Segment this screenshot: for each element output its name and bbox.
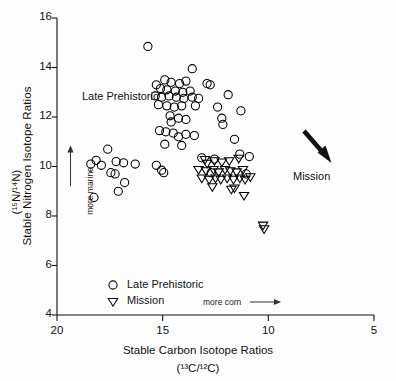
scatter-plot-figure: Stable Nitrogen Isotope Ratios (¹⁵N/¹⁴N)… <box>0 0 396 381</box>
y-tick-label: 12 <box>24 109 52 121</box>
data-point-circle <box>170 103 178 111</box>
y-tick-label: 14 <box>24 60 52 72</box>
legend-label-mission: Mission <box>127 294 164 306</box>
data-point-circle <box>214 103 222 111</box>
x-axis-subtitle: (¹³C/¹²C) <box>0 362 396 374</box>
data-point-circle <box>172 93 180 101</box>
data-point-circle <box>119 159 127 167</box>
data-point-circle <box>206 81 214 89</box>
data-point-circle <box>182 115 190 123</box>
more-marine-arrow-icon <box>67 146 73 187</box>
marine-arrow-head <box>67 146 73 153</box>
annotation-mission: Mission <box>293 170 330 182</box>
annotation-more-marine: more marine <box>85 143 95 239</box>
data-points <box>87 42 269 233</box>
data-point-circle <box>158 166 166 174</box>
data-point-circle <box>188 65 196 73</box>
data-point-circle <box>112 157 120 165</box>
y-tick-label: 16 <box>24 10 52 22</box>
data-point-circle <box>160 169 168 177</box>
y-tick-label: 10 <box>24 159 52 171</box>
legend-label-late-prehistoric: Late Prehistoric <box>127 278 203 290</box>
data-point-circle <box>144 42 152 50</box>
data-point-circle <box>131 160 139 168</box>
mission-arrow-icon <box>304 131 332 163</box>
data-point-circle <box>219 120 227 128</box>
corn-arrow-head <box>274 299 281 305</box>
data-point-circle <box>178 102 186 110</box>
data-point-circle <box>163 102 171 110</box>
data-point-circle <box>121 178 129 186</box>
data-point-circle <box>191 102 199 110</box>
y-tick-label: 4 <box>24 307 52 319</box>
data-point-circle <box>161 140 169 148</box>
legend-marker-circle <box>109 281 117 289</box>
data-point-triangle <box>234 155 243 163</box>
x-axis-title: Stable Carbon Isotope Ratios <box>0 344 396 356</box>
more-corn-arrow-icon <box>250 299 281 305</box>
legend-markers <box>108 281 117 306</box>
annotation-more-corn: more corn <box>203 297 241 307</box>
data-point-circle <box>237 107 245 115</box>
data-point-triangle <box>239 192 248 200</box>
x-tick-label: 15 <box>143 324 183 336</box>
data-point-triangle <box>208 184 217 192</box>
x-tick-label: 10 <box>248 324 288 336</box>
x-tick-label: 5 <box>354 324 394 336</box>
data-point-circle <box>245 153 253 161</box>
y-tick-label: 6 <box>24 258 52 270</box>
data-point-circle <box>152 161 160 169</box>
annotation-late-prehistoric: Late Prehistoric <box>82 90 158 102</box>
data-point-circle <box>190 131 198 139</box>
data-point-circle <box>178 141 186 149</box>
y-axis-subtitle: (¹⁵N/¹⁴N) <box>10 132 22 252</box>
data-point-circle <box>104 145 112 153</box>
data-point-circle <box>174 114 182 122</box>
x-tick-label: 20 <box>37 324 77 336</box>
data-point-circle <box>230 135 238 143</box>
data-point-circle <box>224 91 232 99</box>
data-point-circle <box>97 161 105 169</box>
legend-marker-triangle <box>108 299 117 307</box>
y-tick-label: 8 <box>24 208 52 220</box>
data-point-circle <box>182 130 190 138</box>
data-point-circle <box>114 187 122 195</box>
